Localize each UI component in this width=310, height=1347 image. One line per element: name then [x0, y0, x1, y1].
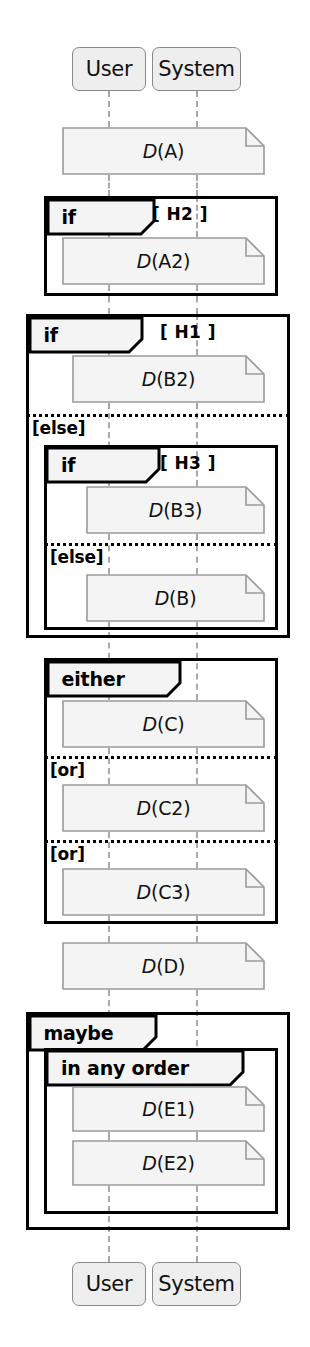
- note-label: D(C2): [137, 797, 191, 819]
- note-label: D(A2): [137, 250, 191, 272]
- note-message-prefix: D: [155, 587, 169, 609]
- note-label: D(D): [142, 955, 185, 977]
- uml-sequence-diagram: if[ H2 ]if[ H1 ][else]if[ H3 ][else]eith…: [0, 0, 310, 1347]
- actor-label: User: [86, 1274, 133, 1295]
- note-C2: D(C2): [62, 784, 265, 832]
- note-message-argument: (A2): [151, 250, 190, 272]
- note-message-argument: (D): [156, 955, 185, 977]
- note-message-prefix: D: [137, 881, 151, 903]
- note-B3: D(B3): [86, 486, 265, 534]
- fragment-operator-tab: either: [48, 662, 180, 696]
- note-label: D(B3): [149, 499, 203, 521]
- note-message-argument: (B3): [163, 499, 202, 521]
- fragment-operator-tab: if: [48, 200, 154, 234]
- actor-label: User: [86, 59, 133, 80]
- note-A2: D(A2): [62, 237, 265, 285]
- operand-separator: [44, 543, 278, 546]
- note-message-prefix: D: [149, 499, 163, 521]
- header-actor-system[interactable]: System: [152, 47, 241, 91]
- fragment-operator-label: if: [47, 454, 75, 476]
- note-message-prefix: D: [137, 797, 151, 819]
- note-label: D(C): [143, 713, 185, 735]
- fragment-guard: [ H3 ]: [160, 453, 216, 473]
- header-actor-user[interactable]: User: [72, 47, 146, 91]
- fragment-operator-tab: if: [47, 448, 159, 482]
- note-message-argument: (C3): [151, 881, 190, 903]
- lifeline-segment: [108, 175, 110, 196]
- operand-guard-label: [else]: [50, 547, 103, 567]
- lifeline-segment: [196, 91, 198, 127]
- fragment-operator-tab: maybe: [30, 1016, 156, 1050]
- note-label: D(B2): [142, 368, 196, 390]
- lifeline-segment: [108, 91, 110, 127]
- note-message-argument: (A): [157, 140, 184, 162]
- lifeline-segment: [196, 175, 198, 196]
- note-label: D(E1): [142, 1098, 195, 1120]
- fragment-operator-label: if: [48, 206, 76, 228]
- actor-label: System: [158, 1274, 235, 1295]
- note-message-argument: (B2): [156, 368, 195, 390]
- note-message-prefix: D: [142, 368, 156, 390]
- operand-guard-label: [or]: [50, 760, 85, 780]
- note-B2: D(B2): [72, 355, 265, 403]
- fragment-operator-label: if: [30, 324, 58, 346]
- note-label: D(C3): [137, 881, 191, 903]
- note-message-argument: (C): [157, 713, 185, 735]
- fragment-guard: [ H2 ]: [152, 204, 208, 224]
- operand-guard-label: [or]: [50, 844, 85, 864]
- note-message-prefix: D: [142, 955, 156, 977]
- note-label: D(E2): [142, 1152, 195, 1174]
- note-C: D(C): [62, 700, 265, 748]
- operand-separator: [44, 840, 278, 843]
- actor-label: System: [158, 59, 235, 80]
- lifeline-segment: [108, 296, 110, 314]
- footer-actor-system[interactable]: System: [152, 1262, 241, 1306]
- note-message-prefix: D: [142, 1152, 156, 1174]
- note-message-argument: (E2): [157, 1152, 195, 1174]
- note-label: D(A): [143, 140, 185, 162]
- note-message-prefix: D: [142, 1098, 156, 1120]
- fragment-operator-label: either: [48, 668, 125, 690]
- footer-actor-user[interactable]: User: [72, 1262, 146, 1306]
- operand-separator: [26, 414, 290, 417]
- note-B: D(B): [86, 574, 265, 622]
- note-E1: D(E1): [72, 1086, 265, 1132]
- operand-separator: [44, 756, 278, 759]
- fragment-operator-tab: if: [30, 318, 142, 352]
- fragment-operator-label: maybe: [30, 1022, 114, 1044]
- note-C3: D(C3): [62, 868, 265, 916]
- note-E2: D(E2): [72, 1140, 265, 1186]
- fragment-operator-tab: in any order: [47, 1051, 243, 1085]
- note-label: D(B): [155, 587, 197, 609]
- note-D: D(D): [62, 942, 265, 990]
- fragment-operator-label: in any order: [47, 1057, 189, 1079]
- note-message-prefix: D: [143, 713, 157, 735]
- note-message-argument: (C2): [151, 797, 190, 819]
- operand-guard-label: [else]: [32, 418, 85, 438]
- note-message-argument: (B): [169, 587, 196, 609]
- note-message-prefix: D: [143, 140, 157, 162]
- lifeline-segment: [196, 296, 198, 314]
- fragment-guard: [ H1 ]: [160, 322, 216, 342]
- note-message-prefix: D: [137, 250, 151, 272]
- note-message-argument: (E1): [157, 1098, 195, 1120]
- note-A: D(A): [62, 127, 265, 175]
